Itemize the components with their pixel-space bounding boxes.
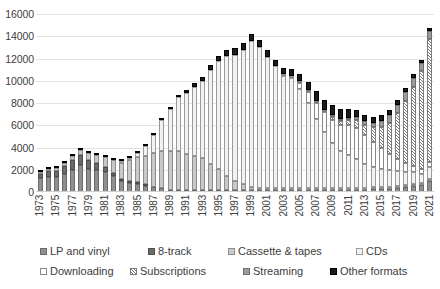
legend-item-cassette-tapes[interactable]: Cassette & tapes <box>228 245 322 257</box>
x-tick-label: 1993 <box>198 195 208 216</box>
legend-label: Downloading <box>50 265 114 277</box>
bar-1999 <box>249 34 254 192</box>
segment-cassette <box>216 169 221 190</box>
legend-label: Cassette & tapes <box>238 245 322 257</box>
segment-cassette <box>143 156 148 184</box>
segment-subscriptions <box>371 127 376 142</box>
segment-cds <box>265 57 270 188</box>
bar-1991 <box>184 90 189 192</box>
legend-swatch-icon <box>356 248 363 255</box>
segment-cds <box>208 70 213 163</box>
segment-cds <box>184 93 189 154</box>
bar-2004 <box>289 69 294 192</box>
segment-cds <box>403 172 408 185</box>
bar-2000 <box>257 40 262 192</box>
legend-label: LP and vinyl <box>50 245 110 257</box>
bar-1994 <box>208 65 213 192</box>
legend-row-1: LP and vinyl8-trackCassette & tapesCDs <box>0 241 440 261</box>
segment-cds <box>192 87 197 156</box>
legend-swatch-icon <box>330 268 337 275</box>
segment-lp <box>54 177 59 192</box>
segment-lp <box>38 178 43 192</box>
legend-item-other-formats[interactable]: Other formats <box>330 265 407 277</box>
segment-lp <box>70 170 75 192</box>
segment-streaming <box>395 105 400 113</box>
legend-item-cds[interactable]: CDs <box>356 245 387 257</box>
bar-1993 <box>200 77 205 192</box>
segment-cds <box>411 172 416 184</box>
bar-2008 <box>322 100 327 192</box>
legend-item-8-track[interactable]: 8-track <box>148 245 192 257</box>
segment-cds <box>314 119 319 188</box>
segment-other <box>306 82 311 91</box>
x-tick-label: 1981 <box>100 195 110 216</box>
bar-2009 <box>330 105 335 192</box>
bar-1982 <box>111 158 116 192</box>
segment-cds <box>241 50 246 184</box>
legend-item-downloading[interactable]: Downloading <box>40 265 114 277</box>
bar-1980 <box>94 153 99 192</box>
x-tick-label: 1987 <box>149 195 159 216</box>
segment-lp <box>46 177 51 192</box>
segment-subscriptions <box>395 113 400 159</box>
y-tick-label: 6000 <box>0 120 34 130</box>
segment-cds <box>354 159 359 188</box>
bar-2005 <box>297 74 302 193</box>
segment-downloading <box>354 128 359 159</box>
segment-downloading <box>314 103 319 119</box>
segment-lp <box>62 174 67 192</box>
x-tick-label: 1985 <box>133 195 143 216</box>
bar-2007 <box>314 91 319 192</box>
segment-cds <box>200 81 205 158</box>
segment-downloading <box>346 125 351 155</box>
segment-downloading <box>338 125 343 151</box>
segment-streaming <box>411 78 416 87</box>
legend-swatch-icon <box>148 248 155 255</box>
segment-cds <box>322 132 327 188</box>
segment-cds <box>306 103 311 188</box>
segment-cassette <box>94 155 99 163</box>
x-tick-label: 2019 <box>409 195 419 216</box>
legend-item-streaming[interactable]: Streaming <box>243 265 303 277</box>
segment-cds <box>257 47 262 188</box>
bar-2001 <box>265 50 270 192</box>
bar-2017 <box>395 100 400 192</box>
segment-cassette <box>168 151 173 189</box>
x-tick-label: 2013 <box>360 195 370 216</box>
segment-cds <box>297 89 302 188</box>
segment-eight_track <box>94 163 99 170</box>
legend-item-subscriptions[interactable]: Subscriptions <box>130 265 206 277</box>
segment-cassette <box>127 160 132 181</box>
chart-legend: LP and vinyl8-trackCassette & tapesCDs D… <box>0 241 440 285</box>
segment-cds <box>159 120 164 151</box>
segment-cassette <box>111 160 116 173</box>
segment-other <box>322 100 327 110</box>
x-tick-label: 1997 <box>230 195 240 216</box>
y-tick-label: 14000 <box>0 31 34 41</box>
segment-cds <box>289 78 294 188</box>
segment-cds <box>387 170 392 186</box>
x-tick-label: 1989 <box>165 195 175 216</box>
x-tick-label: 1975 <box>51 195 61 216</box>
segment-lp <box>78 165 83 192</box>
bar-1973 <box>38 170 43 192</box>
segment-cds <box>330 143 335 188</box>
segment-downloading <box>387 154 392 170</box>
legend-label: Subscriptions <box>140 265 206 277</box>
segment-cds <box>395 171 400 186</box>
segment-streaming <box>427 31 432 39</box>
bars-layer <box>36 14 434 192</box>
segment-cassette <box>224 176 229 190</box>
legend-item-lp-and-vinyl[interactable]: LP and vinyl <box>40 245 110 257</box>
segment-other <box>354 110 359 118</box>
segment-cds <box>362 164 367 188</box>
bar-1997 <box>232 48 237 192</box>
bar-1988 <box>159 118 164 192</box>
legend-label: CDs <box>366 245 387 257</box>
segment-other <box>249 34 254 42</box>
x-tick-label: 2005 <box>295 195 305 216</box>
bar-2006 <box>306 82 311 192</box>
segment-other <box>338 109 343 119</box>
segment-streaming <box>387 115 392 123</box>
bar-1976 <box>62 161 67 192</box>
